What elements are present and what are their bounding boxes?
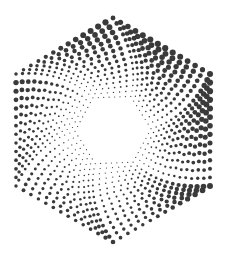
hexagon-dot-pattern-graphic [0,0,226,261]
